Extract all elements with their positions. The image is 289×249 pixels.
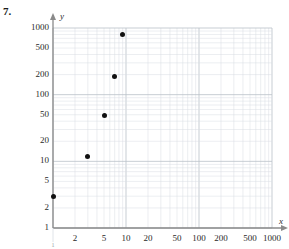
x-origin-tick: 1 [40, 242, 66, 248]
y-tick-1: 1 [19, 222, 49, 232]
x-tick-1000: 1000 [259, 233, 285, 243]
y-tick-5: 5 [19, 175, 49, 185]
y-tick-50: 50 [19, 109, 49, 119]
log-log-scatter-plot: 1000500200100502010521 25102050100200500… [0, 0, 289, 249]
data-point-3 [112, 74, 117, 79]
y-tick-500: 500 [19, 42, 49, 52]
x-tick-200: 200 [208, 233, 234, 243]
y-tick-1000: 1000 [19, 22, 49, 32]
x-tick-20: 20 [135, 233, 161, 243]
y-tick-2: 2 [19, 202, 49, 212]
y-axis-label: y [60, 11, 64, 21]
data-point-1 [85, 154, 90, 159]
y-tick-10: 10 [19, 155, 49, 165]
data-point-0 [51, 194, 56, 199]
y-tick-20: 20 [19, 135, 49, 145]
y-tick-200: 200 [19, 69, 49, 79]
y-tick-100: 100 [19, 89, 49, 99]
x-axis-label: x [279, 216, 283, 226]
